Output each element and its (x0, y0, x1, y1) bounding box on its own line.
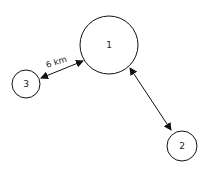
node-1: 1 (80, 16, 138, 74)
edge-3-to-1: 6 km (41, 54, 83, 78)
edge-1-to-2 (130, 68, 171, 130)
edge-label-distance: 6 km (45, 54, 68, 70)
node-3: 3 (12, 70, 40, 98)
node-label: 1 (106, 40, 112, 50)
node-label: 3 (23, 79, 29, 89)
double-arrow-icon (130, 68, 171, 130)
node-2: 2 (167, 131, 197, 161)
distance-diagram: 6 km 1 2 3 (0, 0, 212, 174)
node-label: 2 (179, 141, 185, 151)
